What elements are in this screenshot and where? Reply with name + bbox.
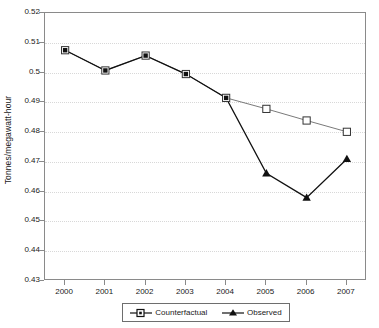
x-axis-tick-label: 2003 [165, 287, 205, 296]
y-axis-tick-mark [39, 220, 44, 221]
y-axis-tick-label: 0.49 [16, 97, 40, 105]
y-axis-tick-label: 0.43 [16, 276, 40, 284]
legend-label-observed: Observed [247, 308, 282, 317]
y-axis-tick-label: 0.51 [16, 38, 40, 46]
y-axis-tick-mark [39, 12, 44, 13]
y-axis-tick-mark [39, 250, 44, 251]
data-point-observed-2007 [343, 155, 351, 162]
x-axis-tick-mark [225, 280, 226, 285]
filled-triangle-marker-icon [222, 308, 244, 318]
x-axis-tick-label: 2004 [205, 287, 245, 296]
y-axis-tick-label: 0.44 [16, 246, 40, 254]
y-axis-tick-mark [39, 161, 44, 162]
y-axis-tick-mark [39, 131, 44, 132]
y-axis-tick-labels: 0.520.510.50.490.480.470.460.450.440.43 [14, 0, 40, 328]
y-axis-tick-mark [39, 72, 44, 73]
x-axis-tick-label: 2007 [326, 287, 366, 296]
x-axis-tick-mark [185, 280, 186, 285]
x-axis-tick-mark [346, 280, 347, 285]
x-axis-tick-mark [145, 280, 146, 285]
plot-area [44, 12, 366, 280]
y-axis-tick-mark [39, 191, 44, 192]
y-axis-tick-mark [39, 42, 44, 43]
y-axis-title-label: Tonnes/megawatt-hour [3, 96, 13, 184]
y-axis-tick-label: 0.48 [16, 127, 40, 135]
y-axis-tick-label: 0.45 [16, 216, 40, 224]
x-axis-tick-mark [104, 280, 105, 285]
y-axis-tick-mark [39, 280, 44, 281]
open-square-marker-icon [130, 308, 152, 318]
x-axis-tick-label: 2002 [125, 287, 165, 296]
y-axis-tick-label: 0.46 [16, 187, 40, 195]
y-axis-tick-label: 0.52 [16, 8, 40, 16]
data-point-observed-2005 [262, 169, 270, 176]
data-point-counterfactual-2005 [263, 105, 270, 112]
y-axis-tick-label: 0.5 [16, 68, 40, 76]
data-point-counterfactual-2007 [343, 128, 350, 135]
x-axis-tick-label: 2001 [84, 287, 124, 296]
series-layer [45, 13, 367, 281]
chart-legend: Counterfactual Observed [122, 303, 290, 322]
x-axis-tick-label: 2005 [245, 287, 285, 296]
x-axis-tick-mark [306, 280, 307, 285]
data-point-counterfactual-2006 [303, 117, 310, 124]
x-axis-tick-label: 2006 [286, 287, 326, 296]
line-chart: Tonnes/megawatt-hour 0.520.510.50.490.48… [0, 0, 379, 328]
legend-entry-observed: Observed [222, 308, 282, 318]
x-axis-tick-mark [64, 280, 65, 285]
legend-label-counterfactual: Counterfactual [155, 308, 207, 317]
y-axis-tick-label: 0.47 [16, 157, 40, 165]
y-axis-tick-mark [39, 101, 44, 102]
x-axis-tick-mark [265, 280, 266, 285]
legend-entry-counterfactual: Counterfactual [130, 308, 207, 318]
x-axis-tick-label: 2000 [44, 287, 84, 296]
